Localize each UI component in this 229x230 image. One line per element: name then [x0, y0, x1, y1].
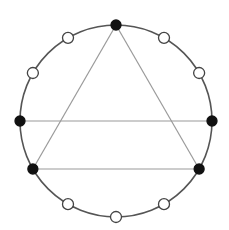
- open-point: [27, 68, 38, 79]
- filled-point: [207, 116, 217, 126]
- chord-line: [33, 25, 116, 169]
- filled-point: [15, 116, 25, 126]
- clock-diagram: [0, 0, 229, 230]
- open-point: [111, 212, 122, 223]
- open-point: [63, 199, 74, 210]
- open-point: [194, 68, 205, 79]
- chord-lines: [20, 25, 212, 169]
- filled-point: [28, 164, 38, 174]
- filled-point: [111, 20, 121, 30]
- open-point: [159, 199, 170, 210]
- chord-line: [116, 25, 199, 169]
- filled-point: [194, 164, 204, 174]
- open-point: [63, 32, 74, 43]
- open-point: [159, 32, 170, 43]
